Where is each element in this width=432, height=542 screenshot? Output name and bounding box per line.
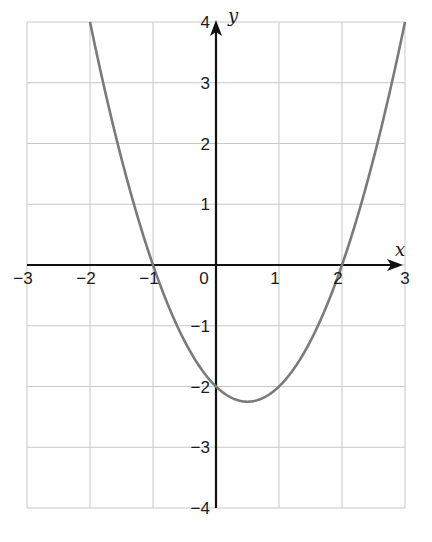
y-axis-label: y — [227, 5, 239, 26]
x-tick-label: −1 — [139, 269, 158, 288]
x-tick-label: −3 — [13, 269, 32, 288]
x-axis-label: x — [395, 239, 405, 260]
x-tick-label: 1 — [270, 269, 279, 288]
x-tick-label: 3 — [400, 269, 409, 288]
y-tick-label: −1 — [191, 317, 210, 336]
parabola-graph: −3−2−10123 4321−1−2−3−4 x y — [0, 0, 432, 542]
x-tick-label: 2 — [333, 269, 342, 288]
x-tick-label: −2 — [76, 269, 95, 288]
parabola-curve — [90, 22, 405, 402]
axes — [27, 20, 403, 508]
y-tick-label: 3 — [201, 74, 210, 93]
y-tick-label: −2 — [191, 378, 210, 397]
y-tick-label: 2 — [201, 135, 210, 154]
x-tick-label: 0 — [199, 269, 208, 288]
x-tick-labels: −3−2−10123 — [13, 269, 409, 288]
y-tick-label: 4 — [201, 13, 210, 32]
y-tick-label: 1 — [201, 195, 210, 214]
y-tick-label: −3 — [191, 438, 210, 457]
y-tick-label: −4 — [191, 499, 210, 518]
